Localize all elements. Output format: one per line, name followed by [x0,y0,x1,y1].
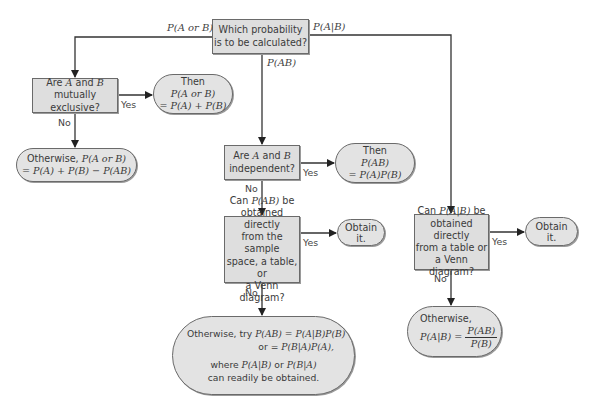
middle-yes1-result-line2: P(AB) [361,157,389,169]
left-yes-label: Yes [121,99,136,110]
indep-line1: Are A and B [233,150,290,162]
left-no-result-line2: = P(A) + P(B) − P(AB) [22,165,131,177]
pab-line1: Can P(AB) be [230,195,295,207]
left-yes-result-pill: Then P(A or B) = P(A) + P(B) [153,74,233,114]
left-yes-result-line1: Then [181,76,205,88]
fraction-denominator: P(B) [471,338,492,350]
branch-label-right: P(A|B) [313,21,345,32]
right-yes-label: Yes [492,236,507,247]
start-text-line1: Which probability [219,24,303,36]
otherwise-try-line3: where P(A|B) or P(B|A) [210,358,316,371]
mutex-line1: Are A and B [46,77,103,89]
left-no-label: No [58,117,71,128]
obtain-line1: Obtain [345,222,377,233]
otherwise-try-line1: Otherwise, try P(AB) = P(A|B)P(B) [187,327,345,340]
pagb-line3: from a table or [416,242,487,254]
otherwise-try-line4: can readily be obtained. [208,371,319,384]
middle-yes1-label: Yes [303,167,318,178]
right-no-label: No [434,273,447,284]
obtain-line2: it. [356,233,365,244]
right-obtain-line1: Obtain [535,221,567,232]
middle-no2-label: No [245,287,258,298]
mutex-line2: mutually exclusive? [33,89,117,113]
formula-lhs: P(A|B) = [420,331,462,343]
right-otherwise-pill: Otherwise, P(A|B) = P(AB) P(B) [407,306,502,357]
pagb-line1: Can P(A|B) be [418,205,486,217]
middle-yes1-result-line1: Then [363,145,387,157]
formula-fraction: P(AB) P(B) [465,325,497,350]
middle-otherwise-try-pill: Otherwise, try P(AB) = P(A|B)P(B) or = P… [172,316,355,395]
obtain-pagivenb-question-box: Can P(A|B) be obtained directly from a t… [414,214,489,270]
indep-line2: independent? [229,163,295,175]
right-obtain-it-pill: Obtain it. [525,217,578,246]
right-obtain-line2: it. [547,232,556,243]
pab-line3: from the sample [225,231,299,255]
start-question-box: Which probability is to be calculated? [212,19,309,54]
pagb-line2: obtained directly [415,218,488,242]
middle-yes2-label: Yes [303,237,318,248]
left-no-result-pill: Otherwise, P(A or B) = P(A) + P(B) − P(A… [16,148,137,182]
left-yes-result-line3: = P(A) + P(B) [159,100,226,112]
middle-yes1-result-pill: Then P(AB) = P(A)P(B) [335,143,415,183]
pab-line2: obtained directly [225,207,299,231]
fraction-numerator: P(AB) [465,325,497,338]
obtain-pab-question-box: Can P(AB) be obtained directly from the … [224,216,300,283]
branch-label-middle: P(AB) [267,57,296,68]
pagb-line4: a Venn diagram? [415,254,488,278]
pab-line4: space, a table, or [225,256,299,280]
otherwise-try-line2: or = P(B|A)P(A), [258,340,334,353]
independent-question-box: Are A and B independent? [224,145,300,180]
start-text-line2: is to be calculated? [214,37,307,49]
branch-label-left: P(A or B) [167,22,213,33]
right-otherwise-formula: P(A|B) = P(AB) P(B) [420,325,497,350]
right-otherwise-line1: Otherwise, [420,313,472,325]
mutually-exclusive-question-box: Are A and B mutually exclusive? [32,78,118,113]
middle-no1-label: No [245,183,258,194]
left-yes-result-line2: P(A or B) [171,88,215,100]
flowchart: Which probability is to be calculated? P… [0,0,597,406]
middle-yes1-result-line3: = P(A)P(B) [349,169,402,181]
pab-line5: a Venn diagram? [225,280,299,304]
middle-obtain-it-pill: Obtain it. [337,219,385,246]
left-no-result-line1: Otherwise, P(A or B) [27,153,126,165]
